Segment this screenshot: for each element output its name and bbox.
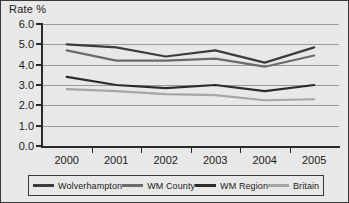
gridline xyxy=(42,65,339,66)
y-tick-label: 5.0 xyxy=(2,38,34,50)
legend-item-wolverhampton[interactable]: Wolverhampton xyxy=(33,181,122,191)
legend-item-britain[interactable]: Britain xyxy=(268,181,319,191)
y-tick-label: 4.0 xyxy=(2,59,34,71)
legend-swatch-icon xyxy=(122,184,143,187)
y-tick-mark xyxy=(36,23,42,25)
legend-item-wm-county[interactable]: WM County xyxy=(122,181,195,191)
x-tick-label: 2000 xyxy=(45,154,89,166)
x-tick-label: 2005 xyxy=(292,154,336,166)
legend-item-label: WM Region xyxy=(220,181,268,191)
gridline xyxy=(42,126,339,127)
y-tick-mark xyxy=(36,125,42,127)
legend-swatch-icon xyxy=(195,184,216,187)
y-tick-mark xyxy=(36,145,42,147)
x-tick-label: 2001 xyxy=(94,154,138,166)
plot-area xyxy=(42,24,339,146)
legend: WolverhamptonWM CountyWM RegionBritain xyxy=(28,175,324,196)
y-tick-mark xyxy=(36,84,42,86)
x-tick-mark xyxy=(240,148,241,153)
gridline xyxy=(42,105,339,106)
gridline xyxy=(42,24,339,25)
y-tick-mark xyxy=(36,64,42,66)
legend-swatch-icon xyxy=(33,184,54,187)
x-tick-mark xyxy=(92,148,93,153)
y-tick-label: 6.0 xyxy=(2,18,34,30)
y-tick-label: 1.0 xyxy=(2,120,34,132)
legend-item-label: WM County xyxy=(147,181,195,191)
x-tick-mark xyxy=(141,148,142,153)
y-tick-label: 0.0 xyxy=(2,140,34,152)
gridline xyxy=(42,44,339,45)
y-axis: 6.05.04.03.02.01.00.0 xyxy=(1,1,34,203)
x-tick-mark xyxy=(290,148,291,153)
x-tick-label: 2002 xyxy=(144,154,188,166)
x-tick-label: 2003 xyxy=(193,154,237,166)
x-tick-label: 2004 xyxy=(243,154,287,166)
y-tick-label: 2.0 xyxy=(2,99,34,111)
legend-item-label: Britain xyxy=(293,181,319,191)
legend-swatch-icon xyxy=(268,184,289,187)
x-tick-mark xyxy=(191,148,192,153)
y-tick-label: 3.0 xyxy=(2,79,34,91)
line-chart: Rate % 6.05.04.03.02.01.00.0 Wolverhampt… xyxy=(0,0,349,203)
legend-item-label: Wolverhampton xyxy=(58,181,122,191)
y-tick-mark xyxy=(36,43,42,45)
gridline xyxy=(42,85,339,86)
legend-item-wm-region[interactable]: WM Region xyxy=(195,181,268,191)
y-tick-mark xyxy=(36,104,42,106)
